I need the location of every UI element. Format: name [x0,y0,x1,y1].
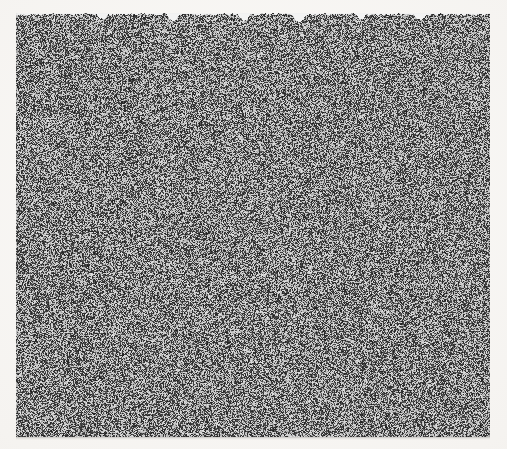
random-dot-noise-plate [16,13,490,437]
noise-canvas [16,13,490,437]
scanned-page: Full-bleed field of fine random black-an… [0,0,507,449]
